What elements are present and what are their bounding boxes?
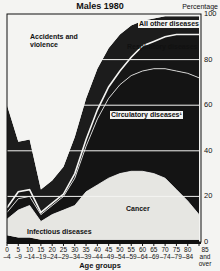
label-all-other: All other diseases <box>138 20 200 28</box>
y-tick-label: 20 <box>204 191 212 200</box>
y-tick-label: 100 <box>204 9 217 18</box>
x-tick-label: 85 andover <box>198 246 212 267</box>
y-tick-label: 80 <box>204 55 212 64</box>
label-respiratory: Respiratory diseases <box>127 43 197 51</box>
x-axis-title: Age groups <box>0 261 200 270</box>
label-cancer: Cancer <box>126 205 150 213</box>
label-infectious: Infectious diseases <box>27 228 92 236</box>
y-tick-label: 0 <box>204 237 208 246</box>
label-circulatory: Circulatory diseases¹ <box>110 111 183 119</box>
y-tick-label: 40 <box>204 146 212 155</box>
label-accidents: Accidents and violence <box>30 33 90 49</box>
y-tick-label: 60 <box>204 100 212 109</box>
x-tick-label: 80–84 <box>181 246 195 260</box>
